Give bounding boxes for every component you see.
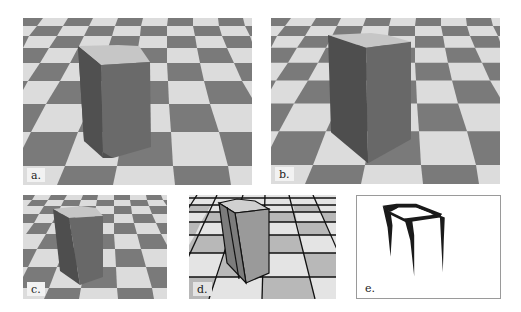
figure-panel-b: b. — [271, 18, 500, 184]
figure-panel-a: a. — [23, 18, 252, 185]
panel-label: e. — [361, 281, 379, 295]
checkerboard-box-render — [271, 18, 500, 184]
figure-panel-e: e. — [356, 195, 501, 299]
panel-label: a. — [27, 168, 45, 182]
box — [78, 45, 151, 158]
panel-label: c. — [27, 282, 45, 296]
checkerboard-box-render — [23, 18, 252, 185]
panel-label: d. — [193, 282, 212, 296]
figure-panel-d: d. — [189, 195, 336, 299]
figure-panel-c: c. — [23, 195, 167, 299]
panel-label: b. — [275, 167, 294, 181]
